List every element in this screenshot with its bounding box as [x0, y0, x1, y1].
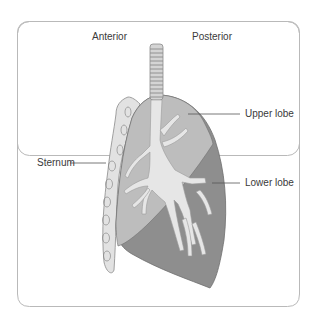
label-upper-lobe: Upper lobe: [245, 108, 294, 119]
trachea: [150, 44, 163, 100]
label-sternum: Sternum: [37, 157, 75, 168]
label-anterior: Anterior: [92, 31, 127, 42]
label-lower-lobe: Lower lobe: [245, 177, 294, 188]
label-posterior: Posterior: [192, 31, 232, 42]
